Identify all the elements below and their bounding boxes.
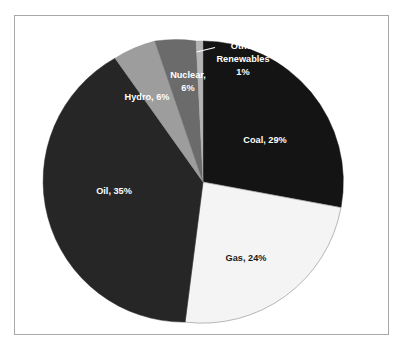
pie-chart-svg: Coal, 29% Gas, 24% Oil, 35% Hydro, 6% Nu… xyxy=(15,16,390,336)
pie-chart-plot-area: Coal, 29% Gas, 24% Oil, 35% Hydro, 6% Nu… xyxy=(15,16,388,334)
pie-label-other-renewables-line1: Other xyxy=(231,41,256,51)
pie-label-hydro: Hydro, 6% xyxy=(125,92,170,102)
pie-label-other-renewables-line3: 1% xyxy=(236,67,249,77)
chart-frame: Coal, 29% Gas, 24% Oil, 35% Hydro, 6% Nu… xyxy=(14,15,389,335)
pie-label-nuclear-line1: Nuclear, xyxy=(170,70,206,80)
pie-label-oil: Oil, 35% xyxy=(96,186,132,196)
pie-label-nuclear-line2: 6% xyxy=(181,83,194,93)
pie-label-other-renewables-line2: Renewables xyxy=(216,54,269,64)
pie-slice-coal[interactable] xyxy=(203,41,343,208)
pie-label-gas: Gas, 24% xyxy=(226,253,267,263)
pie-label-coal: Coal, 29% xyxy=(243,135,286,145)
